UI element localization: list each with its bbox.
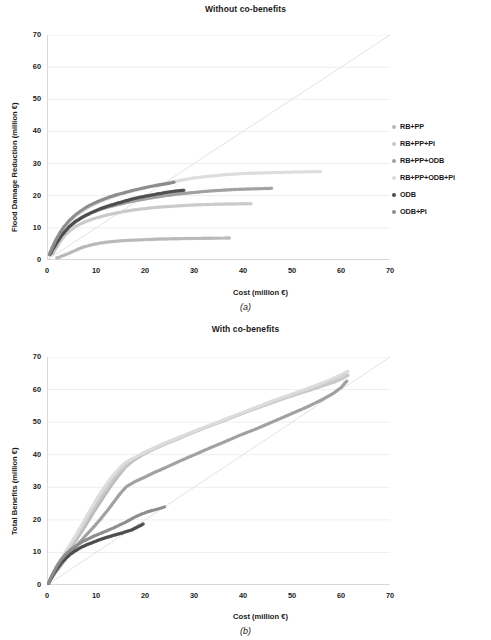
legend-item-label: ODB+Pi: [400, 207, 427, 216]
series-rb-pp-odb: [50, 187, 273, 255]
y-tick-label: 40: [19, 450, 41, 459]
legend-marker-icon: [392, 125, 396, 129]
data-point: [228, 236, 231, 239]
legend-item-odb[interactable]: ODB: [392, 186, 455, 203]
y-tick-label: 0: [19, 255, 41, 264]
y-tick-label: 20: [19, 515, 41, 524]
plot-area-b: [47, 357, 390, 585]
legend-item-label: ODB: [400, 190, 416, 199]
y-axis-label-a: Flood Damage Reduction (million €): [10, 102, 19, 232]
sub-caption-a: (a): [0, 302, 491, 312]
legend-item-rb-pp[interactable]: RB+PP: [392, 118, 455, 135]
x-tick-label: 0: [35, 266, 59, 275]
x-tick-label: 60: [329, 591, 353, 600]
data-point: [345, 379, 348, 382]
legend-item-label: RB+PP+ODB: [400, 156, 444, 165]
data-point: [346, 370, 349, 373]
sub-caption-b: (b): [0, 626, 491, 636]
y-axis-label-b: Total Benefits (million €): [10, 447, 19, 535]
data-point: [172, 181, 175, 184]
x-tick-label: 30: [182, 266, 206, 275]
x-tick-label: 10: [84, 591, 108, 600]
data-point: [163, 505, 166, 508]
scatter-plot-b: [47, 357, 390, 585]
chart-title-a: Without co-benefits: [0, 4, 491, 14]
legend-marker-icon: [392, 159, 396, 163]
data-point: [319, 170, 322, 173]
x-axis-label-b: Cost (million €): [0, 612, 491, 621]
legend-item-label: RB+PP+ODB+Pi: [400, 173, 455, 182]
legend-marker-icon: [392, 142, 396, 146]
data-point: [346, 374, 349, 377]
x-tick-label: 10: [84, 266, 108, 275]
series-rb-pp-pi: [48, 374, 349, 582]
series-rb-pp-odb: [48, 379, 348, 582]
y-tick-label: 70: [19, 352, 41, 361]
x-tick-label: 20: [133, 266, 157, 275]
chart-title-b: With co-benefits: [0, 324, 491, 334]
data-point: [141, 522, 145, 526]
legend-item-label: RB+PP+Pi: [400, 139, 435, 148]
series-rb-pp: [48, 370, 348, 582]
legend-marker-icon: [392, 176, 396, 180]
figure-container: Without co-benefits Flood Damage Reducti…: [0, 0, 491, 640]
y-tick-label: 40: [19, 126, 41, 135]
y-tick-label: 70: [19, 30, 41, 39]
legend-a: RB+PPRB+PP+PiRB+PP+ODBRB+PP+ODB+PiODBODB…: [392, 118, 455, 220]
x-tick-label: 50: [280, 266, 304, 275]
legend-item-odb-pi[interactable]: ODB+Pi: [392, 203, 455, 220]
y-tick-label: 50: [19, 417, 41, 426]
series-rb-pp-odb-pi: [48, 370, 349, 582]
x-tick-label: 40: [231, 266, 255, 275]
x-tick-label: 40: [231, 591, 255, 600]
y-tick-label: 60: [19, 385, 41, 394]
x-tick-label: 60: [329, 266, 353, 275]
legend-marker-icon: [392, 193, 396, 197]
legend-item-rb-pp-odb[interactable]: RB+PP+ODB: [392, 152, 455, 169]
y-tick-label: 30: [19, 482, 41, 491]
x-tick-label: 70: [378, 266, 402, 275]
y-tick-label: 10: [19, 547, 41, 556]
y-tick-label: 50: [19, 94, 41, 103]
chart-panel-b: With co-benefits Total Benefits (million…: [0, 320, 491, 640]
y-tick-label: 60: [19, 62, 41, 71]
series-odb-pi: [48, 181, 176, 256]
x-tick-label: 20: [133, 591, 157, 600]
data-point: [270, 187, 273, 190]
x-tick-label: 0: [35, 591, 59, 600]
reference-line-1to1: [47, 35, 390, 260]
scatter-plot-a: [47, 35, 390, 260]
x-tick-label: 50: [280, 591, 304, 600]
data-point: [182, 189, 186, 193]
y-tick-label: 0: [19, 580, 41, 589]
y-tick-label: 10: [19, 223, 41, 232]
legend-item-rb-pp-pi[interactable]: RB+PP+Pi: [392, 135, 455, 152]
x-tick-label: 70: [378, 591, 402, 600]
x-tick-label: 30: [182, 591, 206, 600]
legend-item-label: RB+PP: [400, 122, 424, 131]
series-rb-pp: [55, 236, 231, 259]
y-tick-label: 20: [19, 191, 41, 200]
plot-area-a: [47, 35, 390, 260]
x-axis-label-a: Cost (million €): [0, 288, 491, 297]
data-point: [249, 202, 252, 205]
y-tick-label: 30: [19, 159, 41, 168]
legend-item-rb-pp-odb-pi[interactable]: RB+PP+ODB+Pi: [392, 169, 455, 186]
legend-marker-icon: [392, 210, 396, 214]
chart-panel-a: Without co-benefits Flood Damage Reducti…: [0, 0, 491, 320]
